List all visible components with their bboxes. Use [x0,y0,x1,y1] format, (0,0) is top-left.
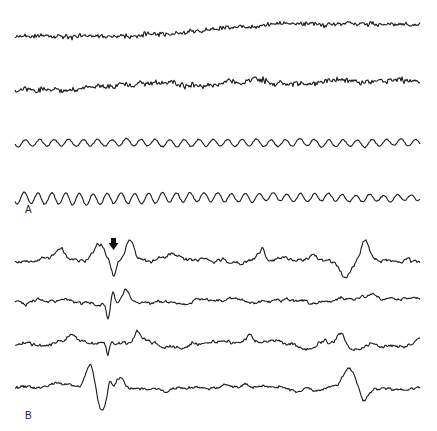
trace-a-3 [15,138,420,148]
trace-b-2 [15,289,420,319]
panel-label-a: A [25,204,32,215]
trace-a-1 [15,21,420,40]
panel-a: A [15,21,420,215]
trace-b-3 [15,330,420,356]
spike-arrow-icon [109,238,119,250]
trace-a-4 [15,192,420,205]
panel-b: B [15,238,420,421]
trace-a-2 [15,77,420,93]
panel-label-b: B [25,410,32,421]
trace-b-1 [15,240,420,278]
eeg-figure: A B [0,0,437,431]
trace-b-4 [15,364,420,410]
